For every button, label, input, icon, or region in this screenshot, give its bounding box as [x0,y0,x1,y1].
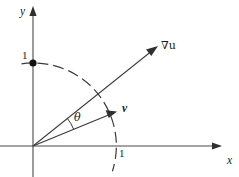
y-axis-arrowhead [29,6,36,16]
direction-vector-label: v [122,103,127,115]
gradient-vector-line [33,50,153,146]
y-unit-point-dot [29,59,36,66]
gradient-vector-label: ∇u [161,40,176,51]
x-axis-label: x [227,155,232,167]
y-unit-tick-label: 1 [22,50,28,61]
figure-root: y x 1 1 θ v ∇u [0,0,239,177]
x-axis-arrowhead [212,142,222,149]
theta-angle-label: θ [74,112,81,123]
y-axis-label: y [20,6,25,18]
x-unit-tick-label: 1 [119,148,125,159]
theta-angle-arc [67,119,73,130]
direction-vector-line [33,114,111,146]
